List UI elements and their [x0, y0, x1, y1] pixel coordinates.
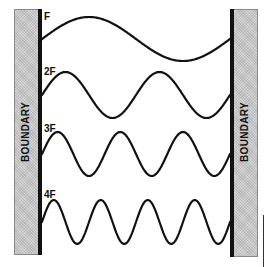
wave-third-harmonic — [42, 132, 230, 176]
wave-second-harmonic — [42, 72, 230, 118]
wave-label-f: F — [44, 12, 50, 22]
waves-canvas — [0, 0, 266, 267]
standing-wave-diagram: BOUNDARY BOUNDARY F 2F 3F 4F — [0, 0, 266, 267]
wave-label-4f: 4F — [44, 190, 56, 200]
wave-fundamental — [42, 17, 230, 61]
wave-label-3f: 3F — [44, 124, 56, 134]
wave-fourth-harmonic — [42, 200, 230, 244]
wave-label-2f: 2F — [44, 67, 56, 77]
